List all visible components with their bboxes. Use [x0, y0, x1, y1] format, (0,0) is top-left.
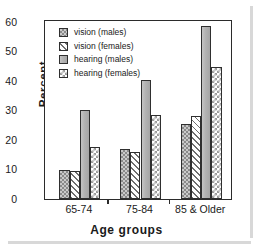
plot-area: vision (males) vision (females) hearing … [44, 20, 232, 200]
legend-item: hearing (males) [59, 54, 140, 65]
legend-label-vision-females: vision (females) [74, 42, 134, 51]
bar [151, 115, 161, 199]
bar [80, 110, 90, 199]
bar [181, 124, 191, 199]
bar [130, 152, 140, 199]
bar [90, 147, 100, 199]
legend-swatch-vision-females [59, 42, 68, 51]
y-tick-label: 20 [0, 134, 17, 146]
legend-label-vision-males: vision (males) [74, 28, 126, 37]
bar [120, 149, 130, 199]
y-tick-label: 30 [0, 104, 17, 116]
bar [201, 26, 211, 199]
bar [59, 170, 69, 200]
figure-shadow-bottom [8, 241, 251, 244]
y-tick-label: 10 [0, 163, 17, 175]
legend-swatch-hearing-females [59, 69, 68, 78]
y-tick-label: 0 [0, 193, 17, 205]
bar [141, 80, 151, 199]
x-axis-title: Age groups [0, 223, 253, 237]
legend-item: hearing (females) [59, 68, 140, 79]
bar [211, 67, 221, 199]
legend: vision (males) vision (females) hearing … [59, 27, 140, 81]
x-tick-label: 75-84 [126, 203, 153, 215]
y-tick-label: 60 [0, 16, 17, 28]
legend-label-hearing-females: hearing (females) [74, 69, 140, 78]
x-tick-label: 85 & Older [175, 203, 225, 215]
x-tick-label: 65-74 [65, 203, 92, 215]
bar [70, 171, 80, 199]
y-tick-label: 50 [0, 45, 17, 57]
x-axis-separator-tick [107, 199, 109, 204]
figure: Percent 0102030405060 vision (males) vis… [0, 0, 253, 246]
figure-shadow-right [250, 6, 253, 238]
legend-swatch-hearing-males [59, 55, 68, 64]
legend-item: vision (males) [59, 27, 140, 38]
legend-swatch-vision-males [59, 28, 68, 37]
legend-item: vision (females) [59, 41, 140, 52]
y-tick-label: 40 [0, 75, 17, 87]
legend-label-hearing-males: hearing (males) [74, 55, 133, 64]
x-axis-separator-tick [169, 199, 171, 204]
bar [191, 116, 201, 199]
